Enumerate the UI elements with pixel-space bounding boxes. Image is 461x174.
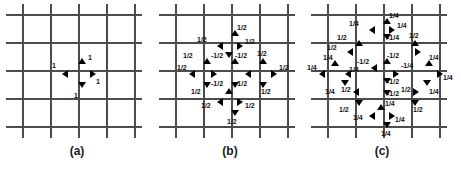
weight-label: -1/2 (387, 90, 399, 97)
weight-label: 1/4 (429, 88, 439, 95)
grid-line-horizontal (159, 42, 295, 44)
arrow-bottom-center-up-icon (377, 104, 385, 110)
arrow-up-icon (78, 58, 86, 64)
weight-label: 1/2 (191, 88, 201, 95)
weight-label: 1/2 (339, 106, 349, 113)
weight-label: 1/4 (443, 74, 453, 81)
weight-label: -1/2 (235, 52, 247, 59)
weight-label: 1/4 (385, 100, 395, 107)
weight-label: -1/4 (387, 34, 399, 41)
weight-label: 1/4 (381, 130, 391, 137)
panel-b: 1/21/21/21/2-1/2-1/21/21/21/2-1/2-1/21/2… (153, 0, 307, 174)
weight-label: 1/4 (323, 54, 333, 61)
weight-label: 1/4 (307, 64, 317, 71)
weight-label: 1/2 (177, 64, 187, 71)
weight-label: 1/2 (401, 86, 411, 93)
arrow-left-down-icon (203, 82, 211, 88)
weight-label: 1/2 (341, 86, 351, 93)
weight-label: 1/4 (353, 114, 363, 121)
weight-label: 1 (74, 92, 78, 99)
arrow-down-icon (78, 82, 86, 88)
weight-label: 1/2 (201, 102, 211, 109)
arrow-right-up-icon (259, 58, 267, 64)
weight-label: 1/4 (325, 88, 335, 95)
grid-line-horizontal (311, 126, 447, 128)
weight-label: -1/2 (235, 80, 247, 87)
grid-line-horizontal (6, 126, 142, 128)
grid-a: 1111 (0, 0, 154, 142)
arrow-bottom-left-down-icon (355, 100, 363, 106)
weight-label: 1 (52, 62, 56, 69)
weight-label: 1/2 (413, 106, 423, 113)
arrow-inner-down-left-icon (217, 98, 223, 106)
grid-line-horizontal (6, 42, 142, 44)
grid-line-horizontal (6, 14, 142, 16)
grid-c: 1/41/41/4-1/41/21/21/21/41/41/4-1/2-1/2-… (305, 0, 459, 142)
weight-label: 1/4 (349, 66, 359, 73)
weight-label: 1/2 (257, 50, 267, 57)
grid-line-horizontal (311, 98, 447, 100)
weight-label: 1/4 (397, 22, 407, 29)
arrow-center-up-left-icon (371, 64, 377, 72)
weight-label: 1/2 (327, 44, 337, 51)
arrow-lower-right-in-icon (413, 88, 419, 96)
panel-c: 1/41/41/4-1/41/21/21/21/41/41/4-1/2-1/2-… (305, 0, 459, 174)
weight-label: 1/2 (197, 36, 207, 43)
panel-caption-b: (b) (153, 144, 307, 158)
weight-label: 1/2 (409, 32, 419, 39)
weight-label: -1/2 (211, 52, 223, 59)
weight-label: 1 (96, 78, 100, 85)
arrow-center-right-in-icon (393, 70, 399, 78)
weight-label: 1/2 (261, 88, 271, 95)
weight-label: 1/4 (429, 54, 439, 61)
weight-label: 1/4 (349, 20, 359, 27)
arrow-inner-up-right-icon (237, 42, 243, 50)
grid-line-horizontal (311, 14, 447, 16)
weight-label: -1/4 (401, 62, 413, 69)
weight-label: 1/2 (245, 38, 255, 45)
arrow-left-icon (62, 70, 68, 78)
arrow-upper-left-inward-icon (347, 48, 353, 56)
arrow-outer-down-icon (231, 110, 239, 116)
arrow-upper-right-inward-icon (415, 48, 421, 56)
stencil-figure: 1111(a)1/21/21/21/2-1/2-1/21/21/21/2-1/2… (0, 0, 461, 174)
arrow-right-icon (90, 70, 96, 78)
weight-label: 1/2 (279, 64, 289, 71)
weight-label: -1/2 (387, 78, 399, 85)
weight-label: -1/2 (357, 58, 369, 65)
arrow-outer-right-icon (271, 70, 277, 78)
arrow-bottom-left-in-icon (369, 112, 375, 120)
grid-line-horizontal (159, 126, 295, 128)
panel-caption-c: (c) (305, 144, 459, 158)
arrow-lower-left-in-icon (353, 88, 359, 96)
weight-label: 1/2 (227, 118, 237, 125)
arrow-lower-right-down-icon (423, 80, 431, 86)
weight-label: 1/2 (245, 102, 255, 109)
arrow-center-down-left-icon (225, 88, 233, 94)
weight-label: 1/4 (395, 116, 405, 123)
weight-label: 1 (88, 54, 92, 61)
arrow-upper-right-up-icon (411, 40, 419, 46)
grid-b: 1/21/21/21/2-1/2-1/21/21/21/2-1/2-1/21/2… (153, 0, 307, 142)
arrow-inner-right-icon (245, 70, 251, 78)
arrow-inner-left-icon (211, 70, 217, 78)
arrow-upper-left-up-icon (355, 40, 363, 46)
weight-label: -1/2 (211, 80, 223, 87)
grid-line-horizontal (311, 70, 447, 72)
arrow-top-right-icon (389, 26, 395, 34)
weight-label: 1/2 (337, 34, 347, 41)
arrow-left-up-icon (203, 58, 211, 64)
grid-line-horizontal (159, 14, 295, 16)
weight-label: 1/4 (389, 12, 399, 19)
arrow-inner-down-right-icon (237, 98, 243, 106)
arrow-top-left-icon (369, 26, 375, 34)
arrow-far-left-out-icon (319, 70, 325, 78)
weight-label: 1/2 (183, 52, 193, 59)
grid-line-horizontal (6, 70, 142, 72)
arrow-outer-left-icon (189, 70, 195, 78)
arrow-bottom-down-icon (383, 122, 391, 128)
weight-label: -1/2 (387, 52, 399, 59)
arrow-center-up-left-icon (225, 52, 233, 58)
arrow-inner-up-left-icon (217, 42, 223, 50)
grid-line-horizontal (159, 98, 295, 100)
